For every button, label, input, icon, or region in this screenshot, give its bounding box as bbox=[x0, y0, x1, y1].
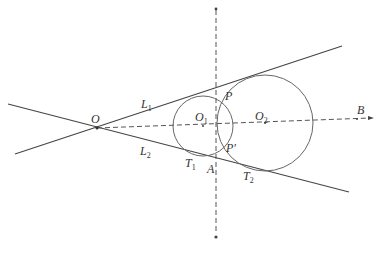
label-l2: L2 bbox=[139, 144, 151, 160]
label-p: P bbox=[224, 89, 233, 103]
label-p-prime: P′ bbox=[225, 141, 236, 155]
point-o bbox=[96, 127, 99, 130]
diagram-canvas: O L1 L2 O1 O2 P P′ A T1 T2 B bbox=[0, 0, 384, 259]
label-t2: T2 bbox=[243, 169, 254, 185]
arrow-b-icon bbox=[368, 116, 374, 120]
endpoint-bottom-icon bbox=[214, 235, 217, 238]
line-l2 bbox=[8, 104, 349, 192]
label-o1: O1 bbox=[195, 110, 208, 126]
label-o2: O2 bbox=[255, 109, 268, 125]
label-a: A bbox=[206, 162, 215, 176]
label-b: B bbox=[357, 103, 365, 117]
label-l1: L1 bbox=[140, 97, 152, 113]
line-l1 bbox=[15, 46, 342, 154]
ray-ob bbox=[97, 118, 370, 128]
geometry-figure: O L1 L2 O1 O2 P P′ A T1 T2 B bbox=[0, 0, 384, 259]
label-t1: T1 bbox=[185, 156, 196, 172]
label-o: O bbox=[91, 112, 100, 126]
endpoint-top-icon bbox=[215, 8, 218, 11]
point-b bbox=[356, 118, 358, 120]
